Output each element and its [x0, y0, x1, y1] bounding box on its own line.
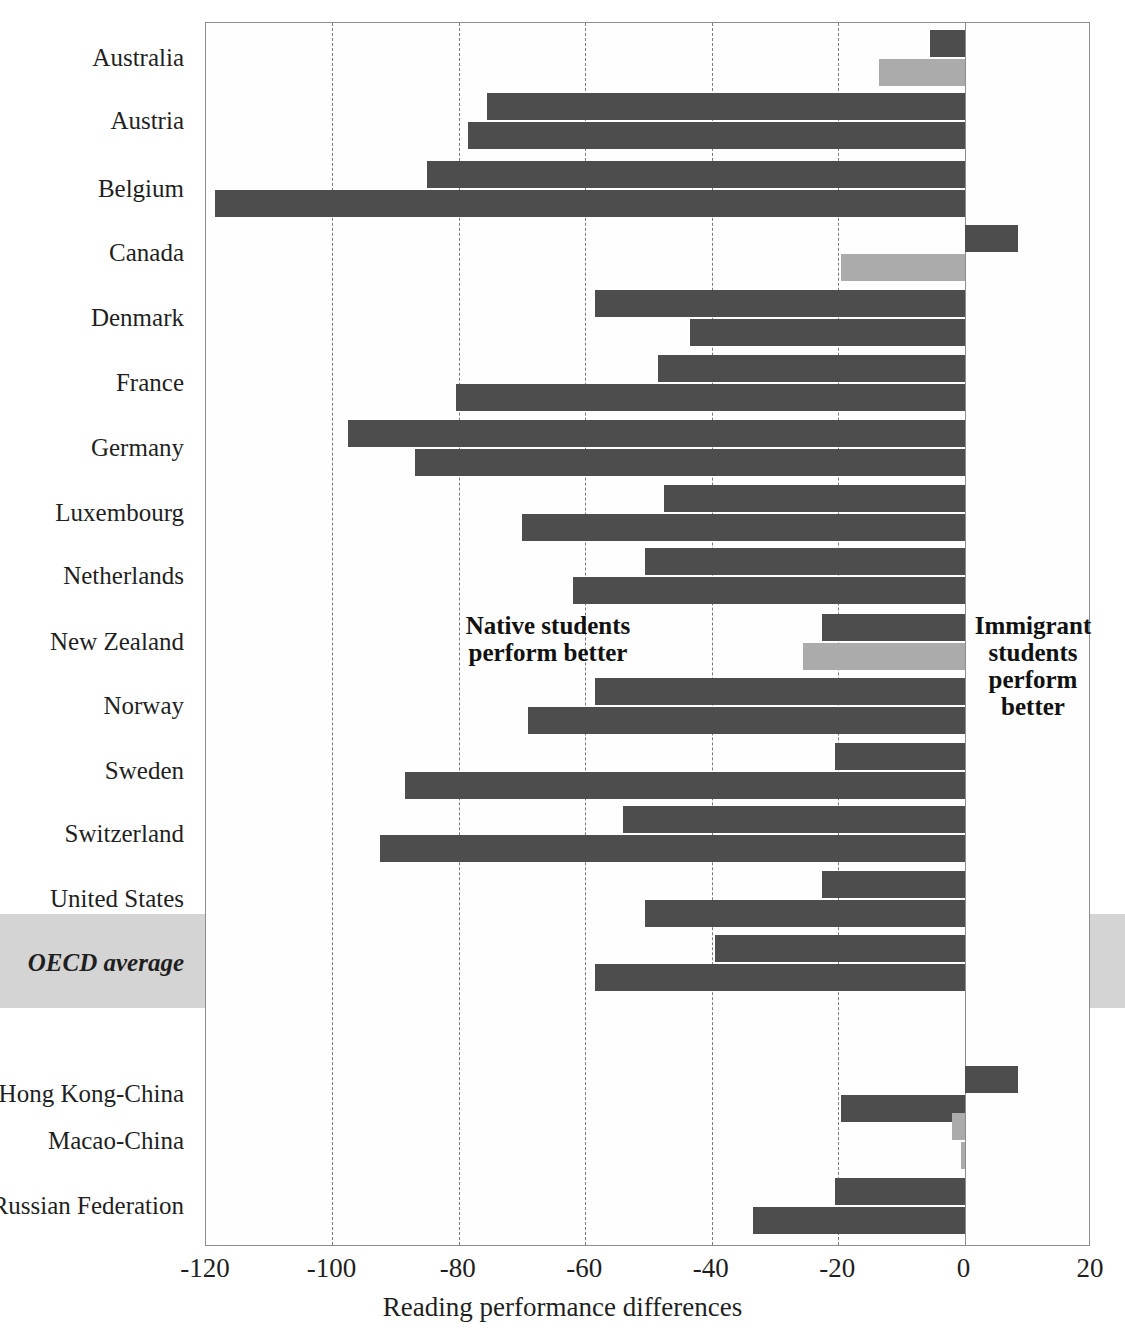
bar-france-series1	[658, 355, 965, 382]
row-label-denmark: Denmark	[91, 305, 184, 330]
bar-luxembourg-series2	[522, 514, 965, 541]
row-label-united-states: United States	[50, 886, 184, 911]
bar-russian-federation-series1	[835, 1178, 965, 1205]
bar-oecd-average-series2	[595, 964, 965, 991]
row-label-australia: Australia	[92, 45, 184, 70]
row-label-oecd-average: OECD average	[28, 950, 184, 975]
row-label-luxembourg: Luxembourg	[55, 500, 184, 525]
bar-canada-series2	[841, 254, 964, 281]
x-tick--20: -20	[777, 1253, 897, 1284]
annotation-line: perform better	[418, 639, 678, 666]
bar-austria-series1	[487, 93, 964, 120]
bar-hong-kong-china-series2	[841, 1095, 964, 1122]
annotation-line: better	[963, 693, 1103, 720]
bar-united-states-series2	[645, 900, 964, 927]
row-label-russian-federation: Russian Federation	[0, 1193, 184, 1218]
bar-netherlands-series1	[645, 548, 964, 575]
bar-oecd-average-series1	[715, 935, 965, 962]
annotation-line: perform	[963, 666, 1103, 693]
bar-sweden-series1	[835, 743, 965, 770]
bar-australia-series1	[930, 30, 965, 57]
bar-norway-series1	[595, 678, 965, 705]
row-label-sweden: Sweden	[105, 758, 184, 783]
bar-denmark-series1	[595, 290, 965, 317]
bar-macao-china-series2	[961, 1142, 964, 1169]
x-axis-title: Reading performance differences	[0, 1292, 1125, 1323]
annotation-native-better: Native studentsperform better	[418, 612, 678, 666]
row-label-norway: Norway	[103, 693, 184, 718]
bar-canada-series1	[965, 225, 1019, 252]
x-tick--60: -60	[524, 1253, 644, 1284]
bar-germany-series2	[415, 449, 965, 476]
bar-russian-federation-series2	[753, 1207, 965, 1234]
x-tick--120: -120	[145, 1253, 265, 1284]
x-tick-20: 20	[1030, 1253, 1125, 1284]
x-tick--40: -40	[651, 1253, 771, 1284]
row-label-switzerland: Switzerland	[65, 821, 184, 846]
bar-new-zealand-series1	[822, 614, 964, 641]
bar-germany-series1	[348, 420, 964, 447]
row-label-new-zealand: New Zealand	[50, 629, 184, 654]
annotation-immigrant-better: Immigrantstudentsperformbetter	[963, 612, 1103, 720]
bar-new-zealand-series2	[803, 643, 964, 670]
row-label-germany: Germany	[91, 435, 184, 460]
bar-france-series2	[456, 384, 965, 411]
bar-norway-series2	[528, 707, 964, 734]
bar-austria-series2	[468, 122, 964, 149]
row-label-hong-kong-china: Hong Kong-China	[0, 1081, 184, 1106]
bar-macao-china-series1	[952, 1113, 965, 1140]
bar-belgium-series1	[427, 161, 964, 188]
bar-luxembourg-series1	[664, 485, 964, 512]
x-tick-0: 0	[904, 1253, 1024, 1284]
row-label-netherlands: Netherlands	[63, 563, 184, 588]
x-tick--80: -80	[398, 1253, 518, 1284]
annotation-line: students	[963, 639, 1103, 666]
bar-belgium-series2	[215, 190, 964, 217]
bar-switzerland-series1	[623, 806, 964, 833]
row-label-france: France	[116, 370, 184, 395]
row-label-austria: Austria	[110, 108, 184, 133]
x-tick--100: -100	[271, 1253, 391, 1284]
bar-hong-kong-china-series1	[965, 1066, 1019, 1093]
bar-sweden-series2	[405, 772, 964, 799]
annotation-line: Immigrant	[963, 612, 1103, 639]
bar-netherlands-series2	[573, 577, 965, 604]
row-label-macao-china: Macao-China	[48, 1128, 184, 1153]
bar-denmark-series2	[690, 319, 965, 346]
category-labels-column: AustraliaAustriaBelgiumCanadaDenmarkFran…	[0, 0, 192, 1337]
reading-performance-chart: AustraliaAustriaBelgiumCanadaDenmarkFran…	[0, 0, 1125, 1337]
row-label-belgium: Belgium	[98, 176, 184, 201]
annotation-line: Native students	[418, 612, 678, 639]
bar-switzerland-series2	[380, 835, 965, 862]
bar-australia-series2	[879, 59, 964, 86]
row-label-canada: Canada	[109, 240, 184, 265]
bar-united-states-series1	[822, 871, 964, 898]
